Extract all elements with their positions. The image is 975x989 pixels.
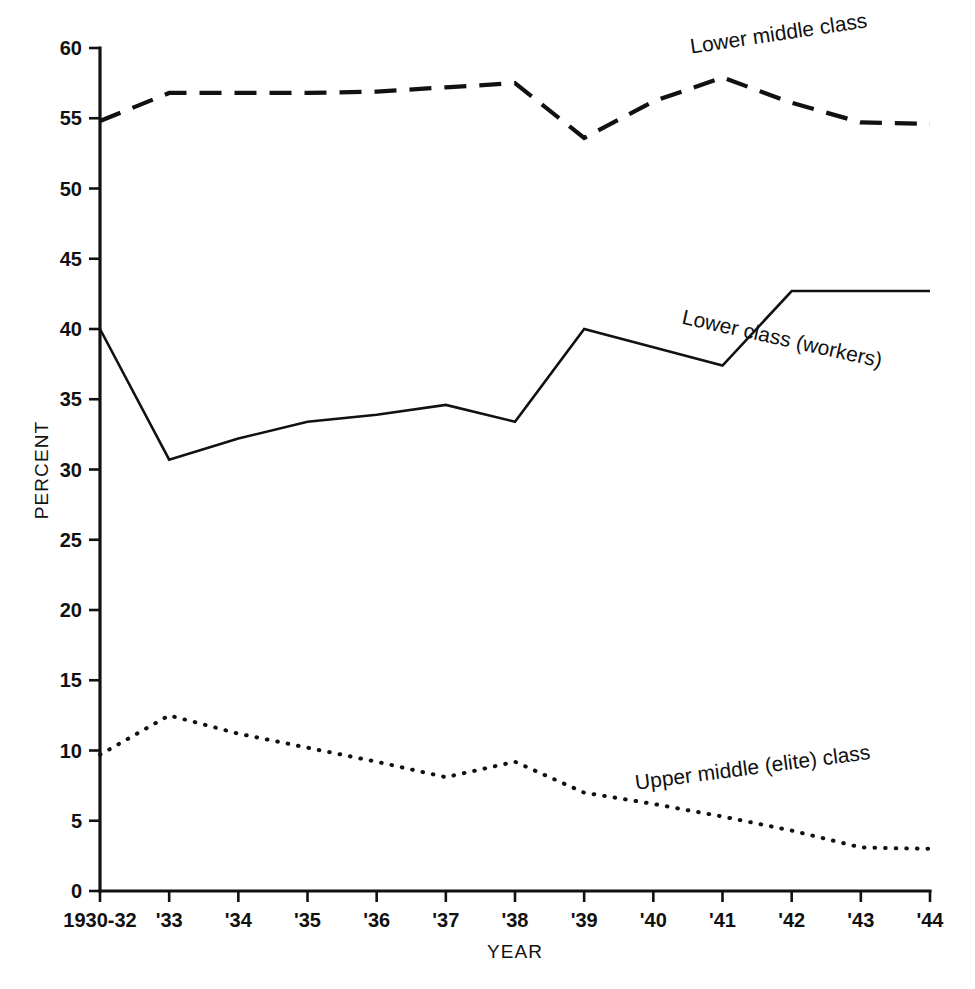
y-tick-label: 20 <box>60 599 82 621</box>
y-tick-label: 50 <box>60 178 82 200</box>
x-tick-label: '38 <box>501 909 528 931</box>
y-tick-label: 15 <box>60 669 82 691</box>
y-tick-label: 30 <box>60 459 82 481</box>
series-line-dashed <box>100 78 930 138</box>
y-tick-label: 5 <box>71 810 82 832</box>
y-tick-label: 40 <box>60 318 82 340</box>
x-tick-label: 1930-32 <box>63 909 136 931</box>
x-tick-label: '37 <box>432 909 459 931</box>
x-tick-label: '44 <box>916 909 944 931</box>
series-line-solid <box>100 291 930 460</box>
series-label-3: Upper middle (elite) class <box>634 740 872 794</box>
x-tick-label: '42 <box>778 909 805 931</box>
series-labels: Lower middle classLower class (workers)U… <box>634 8 885 793</box>
x-axis-title: YEAR <box>487 941 543 962</box>
x-tick-label: '40 <box>640 909 667 931</box>
y-tick-label: 45 <box>60 248 82 270</box>
x-tick-label: '33 <box>156 909 183 931</box>
x-tick-label: '39 <box>571 909 598 931</box>
y-tick-label: 55 <box>60 107 82 129</box>
chart-figure: 051015202530354045505560 1930-32'33'34'3… <box>0 0 975 989</box>
series-line-dotted <box>100 715 930 848</box>
x-tick-label: '41 <box>709 909 736 931</box>
y-axis: 051015202530354045505560 <box>60 37 100 902</box>
y-tick-label: 10 <box>60 740 82 762</box>
x-tick-label: '35 <box>294 909 321 931</box>
line-chart-svg: 051015202530354045505560 1930-32'33'34'3… <box>0 0 975 989</box>
y-axis-title: PERCENT <box>31 421 52 520</box>
x-axis: 1930-32'33'34'35'36'37'38'39'40'41'42'43… <box>63 891 944 931</box>
y-tick-label: 25 <box>60 529 82 551</box>
x-tick-label: '36 <box>363 909 390 931</box>
series-lines <box>100 78 930 849</box>
x-tick-label: '34 <box>225 909 253 931</box>
series-label-1: Lower middle class <box>689 8 869 57</box>
y-tick-label: 60 <box>60 37 82 59</box>
x-tick-label: '43 <box>847 909 874 931</box>
y-tick-label: 0 <box>71 880 82 902</box>
y-tick-label: 35 <box>60 388 82 410</box>
